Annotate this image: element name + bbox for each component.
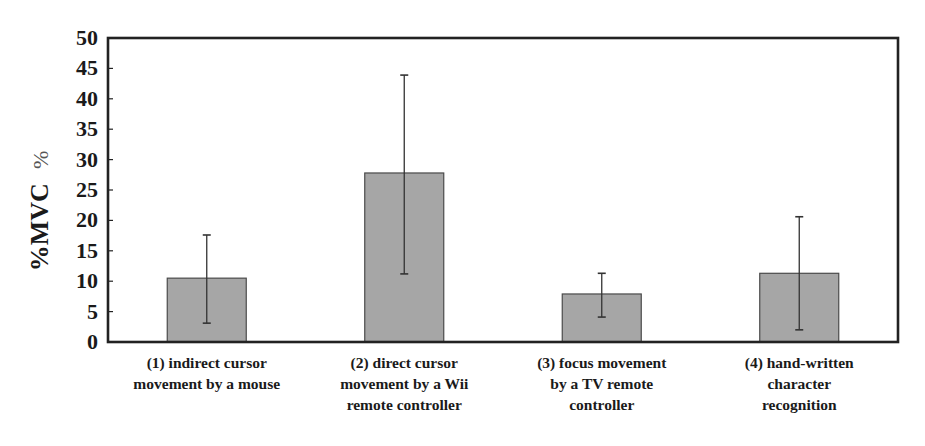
x-category-label: (2) direct cursormovement by a Wiiremote… [309,352,499,415]
x-category-label: (3) focus movementby a TV remotecontroll… [507,352,697,415]
x-category-label: (1) indirect cursormovement by a mouse [112,352,302,394]
bar-chart: %MVC% 05101520253035404550 (1) indirect … [0,0,925,446]
x-category-label: (4) hand-writtencharacterrecognition [704,352,894,415]
